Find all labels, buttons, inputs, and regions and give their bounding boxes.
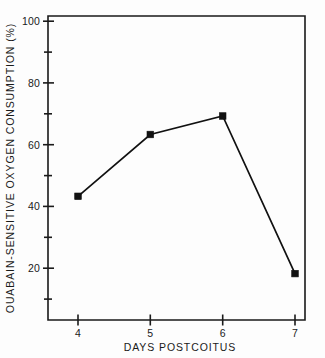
- x-ticklabel-4: 4: [75, 327, 81, 339]
- data-point-day-7: [292, 270, 299, 277]
- data-point-day-5: [147, 131, 154, 138]
- x-ticklabel-7: 7: [292, 327, 298, 339]
- y-axis-title: OUABAIN-SENSITIVE OXYGEN CONSUMPTION (%): [4, 23, 16, 313]
- y-axis-tick-labels: 100 80 60 40 20: [22, 15, 40, 274]
- axis-frame-path: [48, 16, 305, 320]
- y-ticklabel-100: 100: [22, 15, 40, 27]
- x-axis-tick-labels: 4 5 6 7: [75, 327, 298, 339]
- y-ticklabel-20: 20: [28, 262, 40, 274]
- y-ticklabel-60: 60: [28, 139, 40, 151]
- y-ticklabel-40: 40: [28, 200, 40, 212]
- series-line-ouabain: [78, 116, 295, 274]
- x-axis-title: DAYS POSTCOITUS: [124, 341, 237, 353]
- y-ticklabel-80: 80: [28, 77, 40, 89]
- axes-frame: [48, 16, 305, 320]
- line-chart-svg: 100 80 60 40 20 4 5 6 7 DAYS POSTCOITUS …: [0, 0, 325, 358]
- data-series-group: [75, 113, 299, 277]
- chart-figure: 100 80 60 40 20 4 5 6 7 DAYS POSTCOITUS …: [0, 0, 325, 358]
- data-point-day-4: [75, 193, 82, 200]
- x-ticklabel-6: 6: [220, 327, 226, 339]
- data-point-day-6: [219, 113, 226, 120]
- x-ticklabel-5: 5: [147, 327, 153, 339]
